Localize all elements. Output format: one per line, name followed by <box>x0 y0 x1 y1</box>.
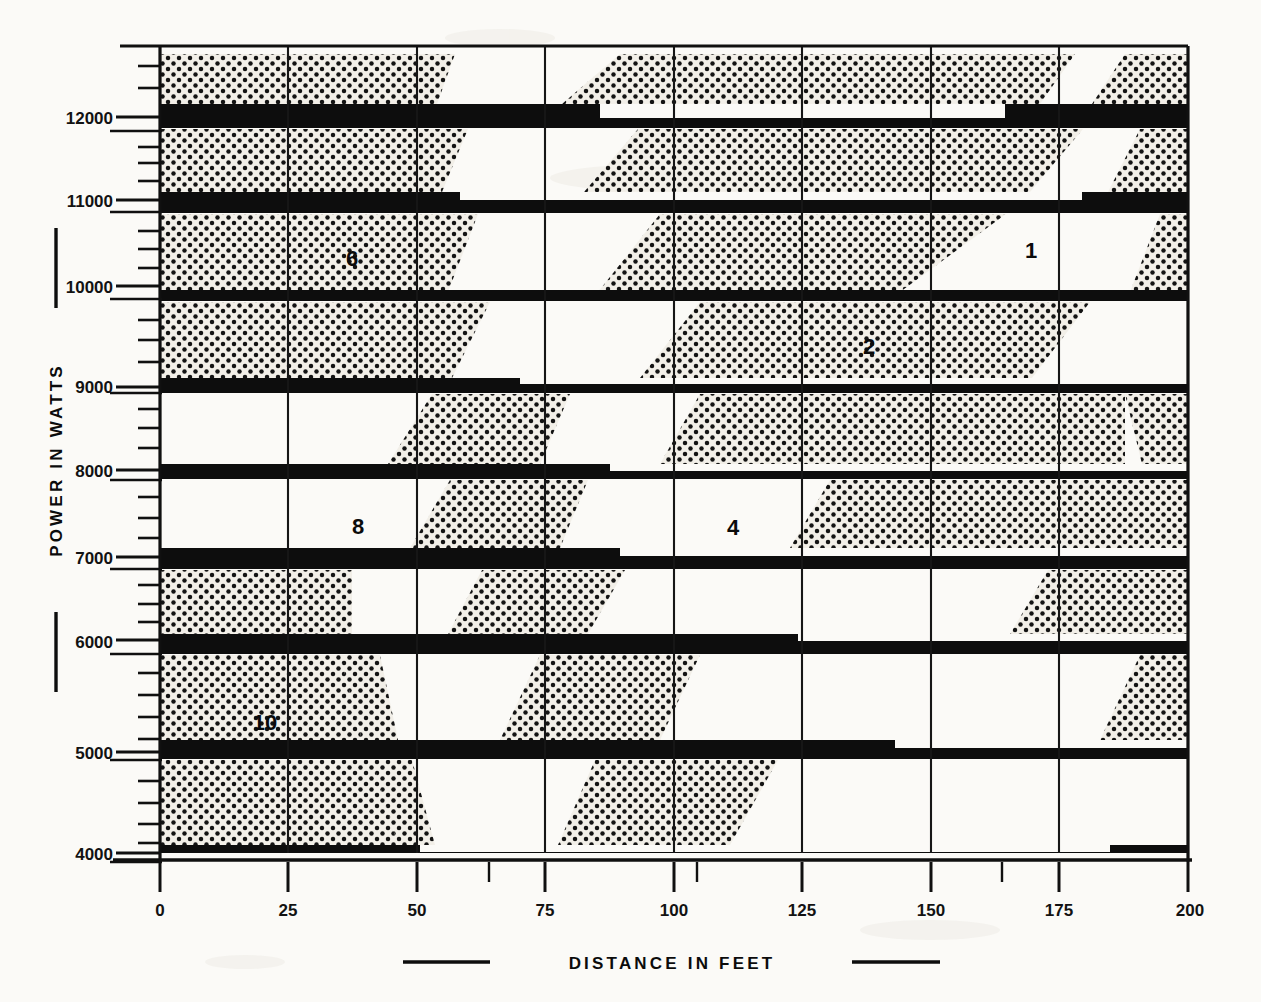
band-8000-9000 <box>388 394 1188 464</box>
region-label-6: 6 <box>346 246 358 271</box>
y-axis-title: POWER IN WATTS <box>47 363 66 557</box>
power-vs-distance-chart: 12000 11000 10000 9000 8000 7000 6000 50… <box>0 0 1261 1002</box>
x-tick-label: 100 <box>660 901 688 920</box>
y-tick-label: 11000 <box>67 192 113 211</box>
y-tick-label: 7000 <box>75 549 113 568</box>
region-label-2: 2 <box>863 334 875 359</box>
region-label-8: 8 <box>352 514 364 539</box>
chart-canvas: 12000 11000 10000 9000 8000 7000 6000 50… <box>0 0 1261 1002</box>
y-tick-label: 12000 <box>66 109 113 128</box>
y-tick-label: 6000 <box>75 633 113 652</box>
y-tick-label: 9000 <box>75 378 113 397</box>
x-tick-label: 125 <box>788 901 816 920</box>
x-tick-label: 200 <box>1176 901 1204 920</box>
x-tick-label: 25 <box>279 901 298 920</box>
region-label-1: 1 <box>1025 238 1037 263</box>
y-tick-label: 8000 <box>75 462 113 481</box>
region-label-10: 10 <box>253 710 277 735</box>
y-tick-label: 4000 <box>75 845 113 864</box>
x-tick-label: 175 <box>1045 901 1073 920</box>
y-tick-label: 5000 <box>75 744 113 763</box>
x-tick-label: 75 <box>536 901 555 920</box>
y-tick-label: 10000 <box>66 278 113 297</box>
x-axis-title: DISTANCE IN FEET <box>569 954 776 973</box>
x-tick-label: 0 <box>155 901 164 920</box>
region-label-4: 4 <box>727 515 740 540</box>
x-tick-label: 150 <box>917 901 945 920</box>
x-tick-label: 50 <box>408 901 427 920</box>
